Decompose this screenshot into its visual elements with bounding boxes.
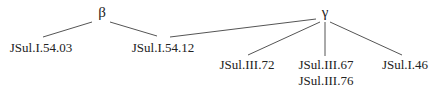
leaf-jsul-i-54-12: JSul.I.54.12 xyxy=(132,40,194,56)
edge-gamma-leaf5 xyxy=(330,22,402,55)
edge-beta-leaf1 xyxy=(43,22,92,37)
leaf-jsul-iii-72: JSul.III.72 xyxy=(220,57,275,73)
edge-beta-leaf2 xyxy=(110,22,157,36)
node-gamma: γ xyxy=(322,4,329,20)
leaf-jsul-i-46: JSul.I.46 xyxy=(382,57,428,73)
leaf-jsul-iii-67: JSul.III.67 xyxy=(299,57,354,73)
node-beta: β xyxy=(98,4,106,20)
leaf-jsul-iii-76: JSul.III.76 xyxy=(299,73,354,89)
edge-gamma-leaf3 xyxy=(248,22,320,55)
leaf-jsul-i-54-03: JSul.I.54.03 xyxy=(10,40,72,56)
